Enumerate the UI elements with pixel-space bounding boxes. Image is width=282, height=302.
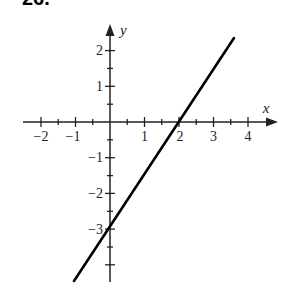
x-tick-label: −1 [66, 129, 81, 144]
y-tick-label: −3 [88, 222, 103, 237]
x-tick-label: 4 [245, 129, 252, 144]
x-axis-arrow-icon [266, 118, 278, 127]
y-tick-label: 1 [96, 79, 103, 94]
y-axis: 2 1 −1 −2 −3 y [88, 22, 127, 282]
x-tick-label: 2 [177, 129, 184, 144]
y-tick-label: −2 [88, 186, 103, 201]
y-axis-arrow-icon [106, 24, 115, 36]
y-tick-label: −1 [88, 150, 103, 165]
x-tick-label: 3 [210, 129, 217, 144]
y-tick-label: 2 [96, 43, 103, 58]
y-axis-label: y [118, 22, 127, 38]
x-tick-label: −2 [34, 129, 49, 144]
x-tick-label: 1 [141, 129, 148, 144]
x-axis-label: x [262, 100, 270, 116]
x-axis: −2 −1 1 2 3 4 x [23, 100, 278, 144]
graph: −2 −1 1 2 3 4 x 2 1 −1 −2 −3 y [0, 0, 282, 302]
